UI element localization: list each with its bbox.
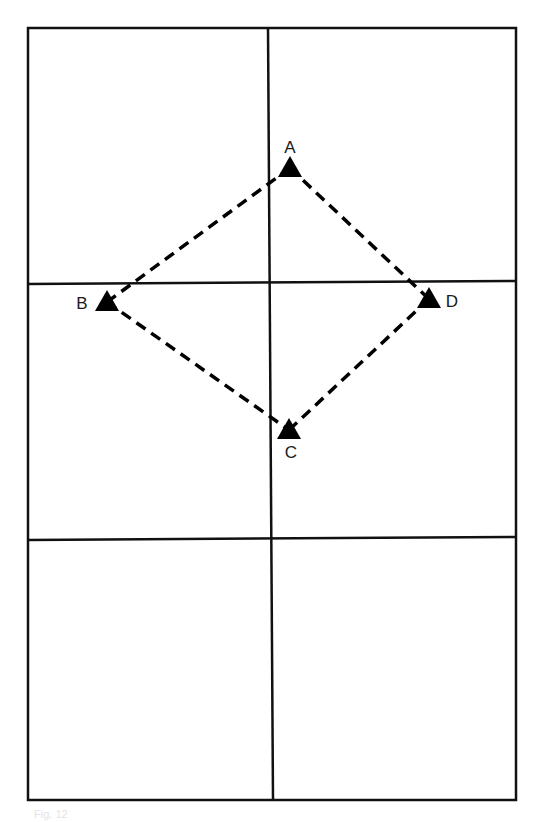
point-label-d: D	[446, 292, 458, 311]
point-label-b: B	[76, 294, 87, 313]
connection-c-d	[289, 299, 429, 430]
point-label-c: C	[285, 443, 297, 462]
triangle-marker-a-icon	[278, 156, 302, 177]
horizontal-divider-2	[28, 537, 516, 540]
point-labels: ABCD	[76, 138, 458, 462]
vertical-divider	[268, 28, 273, 800]
grid-diagram: ABCD Fig. 12	[0, 0, 548, 822]
triangle-marker-b-icon	[95, 290, 119, 311]
connection-d-a	[290, 168, 429, 299]
point-label-a: A	[284, 138, 296, 157]
grid-lines	[28, 28, 516, 800]
horizontal-divider-1	[28, 281, 516, 284]
connection-b-c	[107, 302, 289, 430]
triangle-marker-c-icon	[277, 418, 301, 439]
figure-caption: Fig. 12	[34, 808, 68, 820]
triangle-marker-d-icon	[417, 287, 441, 308]
